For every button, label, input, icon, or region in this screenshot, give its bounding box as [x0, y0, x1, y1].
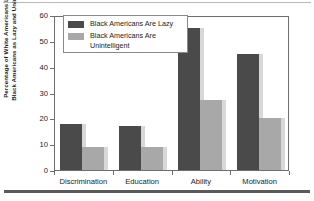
bar [237, 54, 259, 170]
y-tick-label: 50 [0, 37, 54, 47]
x-tick-label: Education [125, 177, 159, 186]
chart-figure: Percentage of White Americans Labeling B… [0, 0, 314, 201]
y-tick-label: 40 [0, 63, 54, 73]
bar [82, 147, 104, 170]
legend-item: Black Americans Are Unintelligent [68, 31, 183, 52]
bar [60, 124, 82, 171]
x-tick-mark [113, 171, 114, 175]
bar [119, 126, 141, 170]
legend-swatch [68, 33, 84, 40]
bar [259, 118, 281, 170]
x-tick-mark [54, 171, 55, 175]
x-tick-label: Ability [191, 177, 211, 186]
y-tick-label: 20 [0, 114, 54, 124]
x-tick-mark [172, 171, 173, 175]
legend-label: Black Americans Are Lazy [90, 19, 173, 30]
x-tick-label: Motivation [242, 177, 277, 186]
y-tick-label: 30 [0, 89, 54, 99]
y-tick-label: 10 [0, 140, 54, 150]
legend-label: Black Americans Are Unintelligent [90, 31, 156, 52]
bar [200, 100, 222, 170]
legend-item: Black Americans Are Lazy [68, 19, 183, 30]
x-tick-mark [289, 171, 290, 175]
y-tick-label: 60 [0, 11, 54, 21]
legend-swatch [68, 21, 84, 28]
bar [141, 147, 163, 170]
top-divider [3, 2, 311, 3]
chart-legend: Black Americans Are LazyBlack Americans … [63, 15, 188, 53]
x-tick-label: Discrimination [60, 177, 108, 186]
bottom-divider [4, 190, 310, 193]
x-tick-mark [230, 171, 231, 175]
y-tick-label: 0 [0, 166, 54, 176]
